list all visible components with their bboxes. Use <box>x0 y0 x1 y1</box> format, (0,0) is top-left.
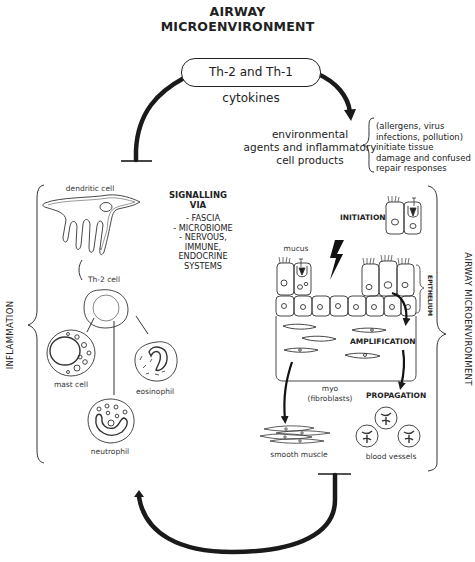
note-line: infections, pollution) <box>376 132 475 143</box>
airway-brace <box>428 186 446 471</box>
signalling-list: - FASCIA - MICROBIOME - NERVOUS, IMMUNE,… <box>148 214 258 271</box>
lightning-bolt-icon <box>330 240 344 280</box>
th2-cell-drawing <box>84 290 128 328</box>
neutrophil-drawing <box>88 399 134 443</box>
mucus-label: mucus <box>276 244 316 253</box>
blood-vessels-drawing <box>356 407 420 447</box>
env-line-3: cell products <box>240 154 380 167</box>
signalling-title-line-2: VIA <box>148 200 248 210</box>
note-line: repair responses <box>376 163 475 174</box>
cytokines-pill: Th-2 and Th-1 cytokines <box>181 58 321 87</box>
smooth-muscle-label: smooth muscle <box>264 450 334 459</box>
title-line-2: MICROENVIRONMENT <box>0 19 475 34</box>
env-line-1: environmental <box>240 128 380 141</box>
eosinophil-label: eosinophil <box>130 387 180 396</box>
propagation-label: PROPAGATION <box>366 391 426 400</box>
myo-line-1: myo <box>300 384 360 394</box>
blood-vessels-label: blood vessels <box>360 452 422 461</box>
th2-connectors <box>87 316 148 395</box>
note-line: initiate tissue <box>376 142 475 153</box>
initiation-cells-drawing <box>386 196 421 234</box>
eosinophil-drawing <box>135 342 177 381</box>
epithelium-label: EPITHELIUM <box>427 266 434 326</box>
signalling-item: SYSTEMS <box>148 262 258 272</box>
top-activation-arrow <box>318 74 356 121</box>
environmental-agents-text: environmental agents and inflammatory ce… <box>240 128 380 167</box>
inflammation-brace <box>28 185 44 463</box>
bottom-feedback-arc <box>134 474 351 552</box>
note-line: damage and confused <box>376 153 475 164</box>
th2-cell-label: Th-2 cell <box>74 275 134 284</box>
mast-cell-label: mast cell <box>46 380 96 389</box>
note-line: (allergens, virus <box>376 121 475 132</box>
environmental-note: (allergens, virus infections, pollution)… <box>376 121 475 174</box>
title-line-1: AIRWAY <box>0 4 475 19</box>
smooth-muscle-drawing <box>260 426 330 443</box>
epithelium-brace <box>416 265 424 313</box>
inflammation-label: INFLAMMATION <box>5 285 15 385</box>
initiation-label: INITIATION <box>340 213 386 222</box>
diagram-title: AIRWAY MICROENVIRONMENT <box>0 4 475 34</box>
airway-microenvironment-label: AIRWAY MICROENVIRONMENT <box>463 234 473 404</box>
mast-cell-drawing <box>47 330 95 376</box>
myo-fibroblasts-label: myo (fibroblasts) <box>300 384 360 404</box>
amplification-label: AMPLIFICATION <box>350 337 416 346</box>
top-inhibition-arc <box>121 78 184 161</box>
signalling-title: SIGNALLING VIA <box>148 190 248 210</box>
env-line-2: agents and inflammatory <box>240 141 380 154</box>
smooth-muscle-arrow <box>284 362 292 420</box>
myo-line-2: (fibroblasts) <box>300 394 360 404</box>
dendritic-cell-label: dendritic cell <box>50 184 130 193</box>
epithelium-drawing <box>276 255 416 381</box>
neutrophil-label: neutrophil <box>85 447 135 456</box>
dendritic-cell-drawing <box>43 195 140 255</box>
signalling-title-line-1: SIGNALLING <box>148 190 248 200</box>
